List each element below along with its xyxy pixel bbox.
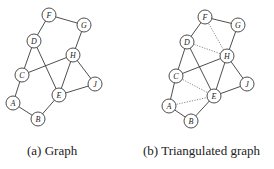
node-label: D [30, 37, 37, 46]
graph-a: FGDHCJEAB [6, 8, 102, 126]
node-h: H [220, 49, 234, 63]
node-a: A [162, 99, 176, 113]
node-label: D [183, 38, 190, 47]
node-label: B [189, 117, 194, 126]
triangulated-graph-b: FGDHCJEAB [162, 10, 254, 128]
node-label: E [56, 91, 62, 100]
node-f: F [42, 8, 56, 22]
node-label: B [36, 115, 41, 124]
caption-triangulated-graph: (b) Triangulated graph [143, 143, 260, 159]
node-label: F [202, 13, 208, 22]
edge-c-h [176, 56, 227, 76]
node-j: J [240, 77, 254, 91]
node-label: F [46, 11, 52, 20]
edge-d-e [34, 41, 59, 95]
node-b: B [31, 112, 45, 126]
node-g: G [77, 18, 91, 32]
node-label: G [235, 21, 241, 30]
node-label: J [245, 80, 249, 89]
node-label: A [166, 102, 172, 111]
node-label: J [93, 80, 97, 89]
node-c: C [15, 68, 29, 82]
node-g: G [231, 18, 245, 32]
node-d: D [180, 35, 194, 49]
node-e: E [52, 88, 66, 102]
node-j: J [88, 77, 102, 91]
node-label: A [10, 99, 16, 108]
node-label: C [19, 71, 25, 80]
node-b: B [184, 114, 198, 128]
node-c: C [169, 69, 183, 83]
node-f: F [198, 10, 212, 24]
node-label: G [81, 21, 87, 30]
edge-c-h [22, 55, 73, 75]
node-a: A [6, 96, 20, 110]
node-label: E [211, 92, 217, 101]
node-label: C [173, 72, 179, 81]
node-e: E [207, 89, 221, 103]
node-d: D [27, 34, 41, 48]
caption-graph: (a) Graph [27, 143, 77, 159]
node-h: H [66, 48, 80, 62]
